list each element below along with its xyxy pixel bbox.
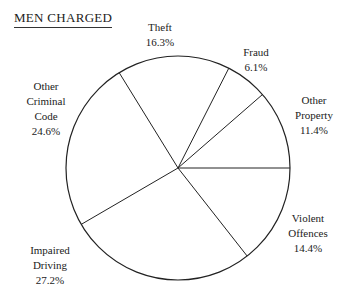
label-theft-name: Theft (135, 20, 185, 35)
label-other-property-line1: Other (284, 93, 344, 108)
label-other-property-pct: 11.4% (284, 123, 344, 138)
label-impaired-pct: 27.2% (20, 273, 80, 288)
label-fraud-pct: 6.1% (231, 60, 281, 75)
label-impaired-line1: Impaired (20, 243, 80, 258)
label-other-property-line2: Property (284, 108, 344, 123)
label-other-criminal-line2: Criminal (14, 94, 78, 109)
label-violent-pct: 14.4% (278, 241, 338, 256)
label-violent-line1: Violent (278, 211, 338, 226)
label-impaired-line2: Driving (20, 258, 80, 273)
label-fraud: Fraud 6.1% (231, 45, 281, 75)
label-other-criminal-line1: Other (14, 79, 78, 94)
label-impaired-driving: Impaired Driving 27.2% (20, 243, 80, 288)
label-theft-pct: 16.3% (135, 35, 185, 50)
label-theft: Theft 16.3% (135, 20, 185, 50)
label-other-property: Other Property 11.4% (284, 93, 344, 138)
label-other-criminal-pct: 24.6% (14, 124, 78, 139)
label-fraud-name: Fraud (231, 45, 281, 60)
label-other-criminal-line3: Code (14, 109, 78, 124)
label-other-criminal-code: Other Criminal Code 24.6% (14, 79, 78, 139)
label-violent-offences: Violent Offences 14.4% (278, 211, 338, 256)
label-violent-line2: Offences (278, 226, 338, 241)
